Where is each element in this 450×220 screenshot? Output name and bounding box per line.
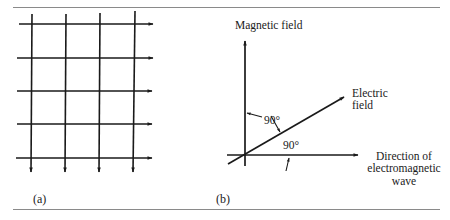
wave-direction-label-line3: wave <box>368 175 440 187</box>
panel-b-label: (b) <box>216 192 230 207</box>
lower-angle-label: 90° <box>283 139 299 151</box>
magnetic-field-label: Magnetic field <box>235 19 302 31</box>
vertical-arrow-3 <box>99 13 100 172</box>
electric-field-label-line2: field <box>352 99 373 111</box>
lower-angle-arrow <box>286 158 289 171</box>
upper-angle-arrow-left <box>247 113 262 117</box>
upper-angle-label: 90° <box>264 114 280 126</box>
wave-direction-label-line1: Direction of <box>368 150 440 162</box>
figure-drawing <box>0 0 450 220</box>
figure: (a) (b) Magnetic field Electric field 90… <box>0 0 450 220</box>
wave-direction-label-line2: electromagnetic <box>362 162 446 174</box>
panel-a-label: (a) <box>33 192 46 207</box>
vertical-arrow-1 <box>31 14 32 172</box>
electric-field-label-line1: Electric <box>352 87 388 99</box>
panel-a-grid <box>16 11 153 172</box>
horizontal-field-lines <box>16 24 153 158</box>
vertical-arrow-4 <box>133 11 135 172</box>
vertical-arrow-2 <box>65 14 66 172</box>
